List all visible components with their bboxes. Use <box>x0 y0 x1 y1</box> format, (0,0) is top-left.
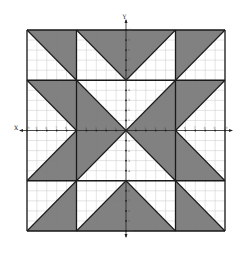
x-tick-dot <box>224 130 226 132</box>
y-tick-dot <box>125 190 127 192</box>
x-tick-label: 3 <box>154 126 156 130</box>
x-tick-dot <box>214 130 216 132</box>
x-tick-label: 10 <box>224 126 228 130</box>
x-tick-dot <box>194 130 196 132</box>
y-tick-label: 3 <box>128 159 130 163</box>
x-tick-label: 9 <box>35 126 37 130</box>
x-tick-label: 8 <box>204 126 206 130</box>
x-tick-label: 4 <box>85 126 87 130</box>
y-tick-dot <box>125 210 127 212</box>
x-tick-label: 4 <box>164 126 166 130</box>
x-tick-label: 1 <box>115 126 117 130</box>
x-tick-label: 2 <box>105 126 107 130</box>
x-tick-dot <box>185 130 187 132</box>
x-tick-label: 6 <box>65 126 67 130</box>
x-tick-label: 10 <box>26 126 30 130</box>
y-tick-dot <box>125 160 127 162</box>
y-tick-dot <box>125 39 127 41</box>
x-tick-dot <box>155 130 157 132</box>
y-tick-dot <box>125 230 127 232</box>
x-tick-dot <box>135 130 137 132</box>
x-tick-dot <box>95 130 97 132</box>
y-tick-dot <box>125 170 127 172</box>
y-tick-label: 5 <box>128 179 130 183</box>
x-tick-label: 8 <box>45 126 47 130</box>
y-tick-label: 5 <box>128 78 130 82</box>
y-tick-label: 3 <box>128 98 130 102</box>
x-tick-label: 9 <box>214 126 216 130</box>
x-tick-label: 1 <box>134 126 136 130</box>
x-tick-dot <box>56 130 58 132</box>
x-axis-arrow-icon <box>19 129 23 132</box>
y-tick-dot <box>125 99 127 101</box>
y-tick-label: 6 <box>128 68 130 72</box>
x-tick-label: 5 <box>174 126 176 130</box>
x-tick-dot <box>36 130 38 132</box>
y-tick-label: 4 <box>128 169 130 173</box>
y-tick-dot <box>125 89 127 91</box>
x-tick-dot <box>165 130 167 132</box>
x-tick-dot <box>204 130 206 132</box>
x-tick-label: 7 <box>194 126 196 130</box>
y-tick-label: 2 <box>128 149 130 153</box>
y-tick-dot <box>125 59 127 61</box>
x-tick-dot <box>175 130 177 132</box>
y-tick-dot <box>125 150 127 152</box>
y-tick-label: 8 <box>128 209 130 213</box>
y-tick-label: 7 <box>128 58 130 62</box>
y-tick-label: 8 <box>128 48 130 52</box>
y-tick-dot <box>125 69 127 71</box>
y-axis-arrow-icon <box>125 234 128 238</box>
y-tick-dot <box>125 110 127 112</box>
y-tick-dot <box>125 140 127 142</box>
x-axis-label: X <box>14 124 19 131</box>
x-tick-label: 2 <box>144 126 146 130</box>
y-tick-label: 1 <box>128 139 130 143</box>
y-tick-label: 6 <box>128 189 130 193</box>
x-tick-dot <box>145 130 147 132</box>
y-tick-dot <box>125 200 127 202</box>
x-tick-label: 6 <box>184 126 186 130</box>
x-axis-arrow-icon <box>229 129 233 132</box>
y-tick-label: 7 <box>128 199 130 203</box>
y-axis-label: Y <box>122 13 128 20</box>
x-tick-label: 3 <box>95 126 97 130</box>
x-tick-label: 7 <box>55 126 57 130</box>
y-tick-label: 10 <box>128 28 132 32</box>
y-tick-dot <box>125 49 127 51</box>
y-tick-label: 10 <box>128 229 132 233</box>
x-tick-dot <box>26 130 28 132</box>
y-tick-label: 9 <box>128 38 130 42</box>
x-tick-dot <box>86 130 88 132</box>
y-tick-label: 1 <box>128 118 130 122</box>
y-tick-dot <box>125 79 127 81</box>
y-tick-dot <box>125 120 127 122</box>
quilt-coordinate-diagram: 1098765432112345678910109876543211234567… <box>0 0 246 254</box>
y-tick-label: 4 <box>128 88 130 92</box>
x-tick-label: 5 <box>75 126 77 130</box>
y-tick-label: 2 <box>128 108 130 112</box>
y-tick-label: 9 <box>128 219 130 223</box>
y-tick-dot <box>125 180 127 182</box>
x-tick-dot <box>105 130 107 132</box>
x-tick-dot <box>46 130 48 132</box>
y-tick-dot <box>125 29 127 31</box>
x-tick-dot <box>66 130 68 132</box>
y-tick-dot <box>125 220 127 222</box>
x-tick-dot <box>76 130 78 132</box>
x-tick-dot <box>115 130 117 132</box>
